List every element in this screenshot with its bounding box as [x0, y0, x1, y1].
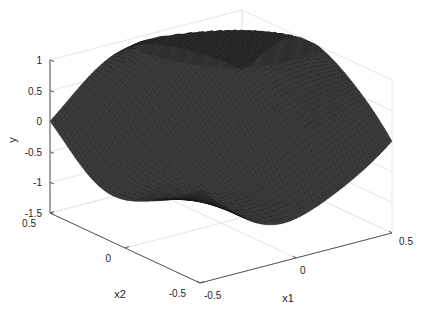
x1-tick-label: -0.5: [204, 290, 222, 301]
x1-axis-label: x1: [282, 292, 294, 304]
surface-plot: 10.50-0.5-1-1.50.50-0.5-0.500.5 y x2 x1: [0, 0, 423, 314]
z-tick-label: 1: [36, 55, 42, 66]
x1-tick-label: 0: [300, 265, 306, 276]
z-axis-label: y: [6, 137, 18, 143]
z-tick-label: 0.5: [28, 86, 42, 97]
x2-tick-label: 0.5: [22, 218, 36, 229]
x1-tick-label: 0.5: [399, 236, 413, 247]
x2-axis-label: x2: [114, 288, 126, 300]
z-tick-label: -1: [33, 177, 42, 188]
z-tick-label: 0: [36, 116, 42, 127]
x2-tick-label: 0: [105, 253, 111, 264]
surface-mesh: [50, 30, 392, 225]
z-tick-label: -0.5: [25, 147, 43, 158]
x2-tick-label: -0.5: [169, 288, 187, 299]
